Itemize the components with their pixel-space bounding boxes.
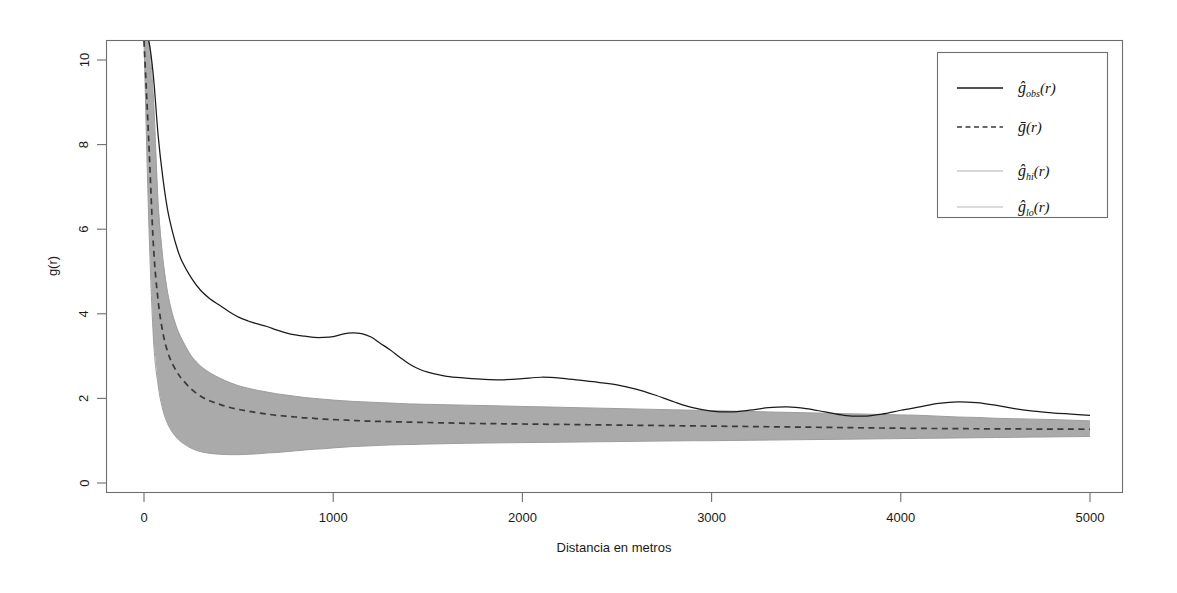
chart-canvas: 010002000300040005000 0246810 Distancia …	[0, 0, 1177, 593]
y-tick-label: 0	[77, 479, 92, 486]
legend: ĝobs(r)ḡ(r)ĝhi(r)ĝlo(r)	[938, 53, 1108, 219]
envelope-plot: 010002000300040005000 0246810 Distancia …	[0, 0, 1177, 593]
x-tick-label: 0	[140, 510, 147, 525]
y-axis-tick-labels: 0246810	[77, 53, 92, 487]
y-axis-ticks	[97, 60, 106, 483]
x-axis-ticks	[144, 493, 1090, 502]
y-tick-label: 2	[77, 395, 92, 402]
y-tick-label: 10	[77, 53, 92, 67]
x-axis-tick-labels: 010002000300040005000	[140, 510, 1104, 525]
x-tick-label: 5000	[1076, 510, 1105, 525]
x-tick-label: 2000	[508, 510, 537, 525]
x-tick-label: 1000	[319, 510, 348, 525]
legend-item-label: ḡ(r)	[1018, 118, 1042, 136]
x-axis-label: Distancia en metros	[557, 540, 672, 555]
y-tick-label: 6	[77, 226, 92, 233]
legend-box	[938, 53, 1108, 218]
x-tick-label: 3000	[697, 510, 726, 525]
y-tick-label: 8	[77, 141, 92, 148]
y-axis-label: g(r)	[45, 256, 60, 276]
x-tick-label: 4000	[886, 510, 915, 525]
y-tick-label: 4	[77, 310, 92, 317]
